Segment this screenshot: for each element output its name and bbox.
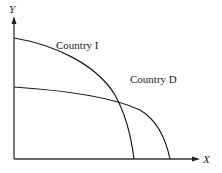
x-axis-arrow-icon <box>192 157 200 162</box>
country-d-curve <box>14 87 170 159</box>
y-axis-arrow-icon <box>12 16 17 24</box>
country-i-label: Country I <box>56 39 99 51</box>
x-axis-label: X <box>202 153 211 165</box>
y-axis-label: Y <box>9 3 17 15</box>
country-i-curve <box>14 38 134 159</box>
y-axis: Y <box>9 3 17 159</box>
x-axis: X <box>14 153 211 165</box>
country-d-label: Country D <box>130 73 177 85</box>
ppf-chart: Y X Country I Country D <box>0 0 222 173</box>
